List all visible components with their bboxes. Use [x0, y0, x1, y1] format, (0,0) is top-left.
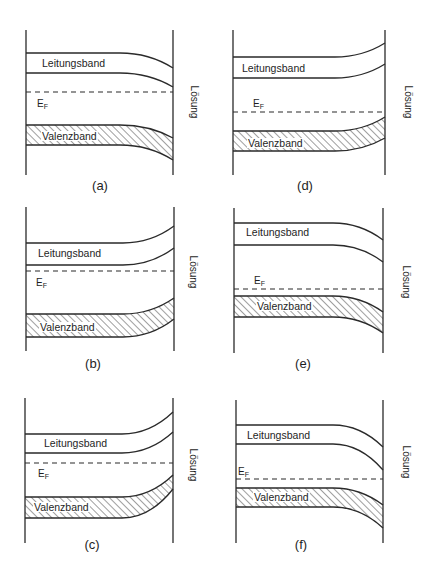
panel-caption-b: (b) — [85, 356, 101, 371]
solution-label: Lösung — [401, 266, 412, 299]
panel-caption-c: (c) — [84, 537, 99, 552]
conduction-band-label: Leitungsband — [246, 226, 309, 238]
valence-band-label: Valenzband — [34, 501, 89, 513]
conduction-band-label: Leitungsband — [44, 437, 107, 449]
panel-caption-a: (a) — [92, 178, 108, 193]
fermi-level-label: EF — [38, 468, 49, 480]
solution-label: Lösung — [189, 86, 200, 119]
fermi-level-label: EF — [37, 98, 48, 110]
solution-label: Lösung — [401, 446, 412, 479]
panel-f: LeitungsbandValenzbandEFLösung(f) — [236, 400, 412, 552]
panel-c: LeitungsbandValenzbandEFLösung(c) — [25, 398, 199, 552]
panel-d: LeitungsbandValenzbandEFLösung(d) — [233, 30, 414, 193]
fermi-level-label: EF — [36, 277, 47, 289]
fermi-level-label: EF — [253, 98, 264, 110]
conduction-band-lower-edge — [234, 245, 383, 262]
conduction-band-upper-edge — [233, 43, 385, 57]
conduction-band-upper-edge — [25, 412, 173, 434]
conduction-band-label: Leitungsband — [42, 57, 105, 69]
conduction-band-upper-edge — [26, 226, 174, 243]
fermi-level-label: EF — [254, 275, 265, 287]
panel-e: LeitungsbandValenzbandEFLösung(e) — [234, 208, 412, 371]
band-diagram-figure: LeitungsbandValenzbandEFLösung(a)Leitung… — [0, 0, 432, 570]
panel-b: LeitungsbandValenzbandEFLösung(b) — [26, 207, 199, 371]
valence-band-label: Valenzband — [42, 130, 97, 142]
solution-label: Lösung — [188, 256, 199, 289]
conduction-band-label: Leitungsband — [247, 429, 310, 441]
solution-label: Lösung — [188, 449, 199, 482]
valence-band-label: Valenzband — [248, 137, 303, 149]
conduction-band-lower-edge — [26, 73, 173, 87]
solution-label: Lösung — [403, 86, 414, 119]
panel-caption-e: (e) — [295, 356, 311, 371]
valence-band-label: Valenzband — [257, 300, 312, 312]
valence-band-label: Valenzband — [40, 321, 95, 333]
panel-caption-d: (d) — [297, 178, 313, 193]
valence-band-label: Valenzband — [254, 491, 309, 503]
panel-a: LeitungsbandValenzbandEFLösung(a) — [26, 30, 200, 193]
fermi-level-label: EF — [238, 466, 249, 478]
conduction-band-label: Leitungsband — [242, 62, 305, 74]
conduction-band-label: Leitungsband — [38, 247, 101, 259]
conduction-band-lower-edge — [236, 444, 383, 470]
panel-caption-f: (f) — [295, 537, 307, 552]
